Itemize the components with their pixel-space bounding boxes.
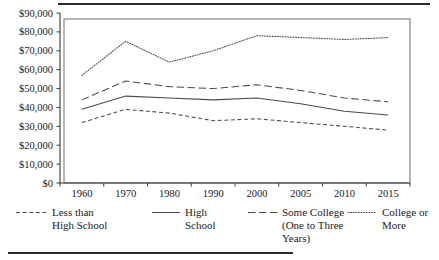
legend-label-0: Less than: [52, 206, 94, 218]
series-line-0: [82, 109, 388, 130]
legend-label-1: High: [185, 206, 208, 218]
x-axis-tick-label: 1990: [203, 188, 224, 199]
y-axis-tick-label: $70,000: [19, 45, 53, 56]
y-axis-tick-label: $50,000: [19, 83, 53, 94]
plot-area-border: [64, 19, 410, 183]
legend-label-2: Some College: [282, 206, 344, 218]
y-axis-tick-label: $30,000: [19, 121, 53, 132]
x-axis-tick-label: 1980: [159, 188, 180, 199]
data-series-group: [82, 36, 388, 130]
y-axis-tick-labels: $0$10,000$20,000$30,000$40,000$50,000$60…: [19, 8, 53, 189]
legend-label-1: School: [185, 219, 216, 231]
series-line-1: [82, 96, 388, 115]
y-axis-tick-label: $10,000: [19, 159, 53, 170]
legend-label-3: College or: [382, 206, 428, 218]
y-axis-tick-label: $90,000: [19, 8, 53, 19]
bottom-horizontal-rule: [8, 252, 293, 254]
x-axis-tick-labels: 19601970198019902000200520102015: [71, 188, 398, 199]
x-axis-tick-label: 1970: [115, 188, 136, 199]
legend-label-2: Years): [282, 232, 311, 245]
chart-legend: Less thanHigh SchoolHighSchoolSome Colle…: [16, 206, 428, 245]
legend-label-0: High School: [52, 219, 107, 231]
y-axis-tick-label: $60,000: [19, 64, 53, 75]
x-axis-tick-label: 2010: [334, 188, 355, 199]
x-axis-tick-label: 2015: [378, 188, 399, 199]
legend-label-2: (One to Three: [282, 219, 344, 232]
x-axis-tick-label: 2000: [246, 188, 267, 199]
x-axis-tick-label: 2005: [290, 188, 311, 199]
y-axis-tick-label: $0: [43, 178, 54, 189]
series-line-3: [82, 36, 388, 76]
top-horizontal-rule: [58, 3, 430, 5]
y-axis-tick-label: $40,000: [19, 102, 53, 113]
income-by-education-line-chart: $0$10,000$20,000$30,000$40,000$50,000$60…: [0, 0, 439, 260]
chart-figure: $0$10,000$20,000$30,000$40,000$50,000$60…: [0, 0, 439, 260]
y-axis-tick-label: $20,000: [19, 140, 53, 151]
legend-label-3: More: [382, 219, 406, 231]
x-axis-tick-label: 1960: [71, 188, 92, 199]
y-axis-tick-label: $80,000: [19, 26, 53, 37]
